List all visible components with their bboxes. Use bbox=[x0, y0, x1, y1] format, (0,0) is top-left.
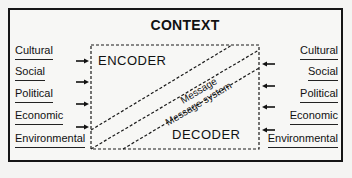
arrow-right-icon bbox=[84, 80, 89, 85]
arrow-right-icon bbox=[84, 102, 89, 107]
arrow-left-icon bbox=[262, 84, 267, 89]
diagonal-line-2 bbox=[91, 50, 259, 149]
arrow-left-icon bbox=[262, 105, 267, 110]
arrow-right-icon bbox=[84, 125, 89, 130]
arrow-left-icon bbox=[262, 62, 267, 67]
left-arrows bbox=[76, 59, 89, 130]
dashed-box bbox=[91, 45, 259, 149]
right-arrows bbox=[262, 62, 275, 133]
arrow-left-icon bbox=[262, 128, 267, 133]
diagram-graphics: Message Message system bbox=[0, 0, 352, 178]
arrow-right-icon bbox=[84, 59, 89, 64]
